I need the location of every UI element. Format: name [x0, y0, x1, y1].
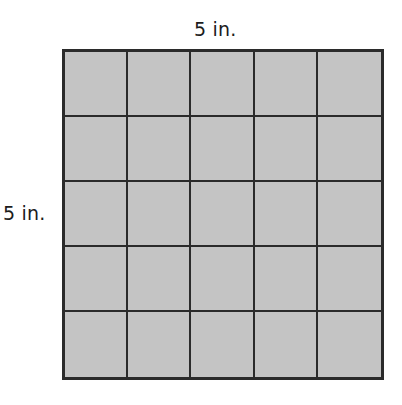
grid-cell	[65, 117, 128, 182]
grid-cell	[65, 247, 128, 312]
grid-cell	[191, 182, 254, 247]
grid-cell	[128, 52, 191, 117]
grid-cell	[318, 117, 381, 182]
grid-cell	[65, 52, 128, 117]
grid-cell	[65, 312, 128, 377]
grid-cell	[65, 182, 128, 247]
grid-cell	[318, 247, 381, 312]
grid-cell	[255, 182, 318, 247]
grid-cell	[191, 52, 254, 117]
grid-cell	[191, 117, 254, 182]
grid-cell	[255, 312, 318, 377]
grid-cell	[318, 182, 381, 247]
grid-cell	[128, 312, 191, 377]
grid-cell	[318, 52, 381, 117]
width-label: 5 in.	[194, 18, 237, 40]
grid-cell	[191, 312, 254, 377]
grid-cell	[128, 182, 191, 247]
square-grid	[62, 49, 384, 380]
grid-cell	[255, 247, 318, 312]
grid-cell	[128, 117, 191, 182]
grid-cell	[128, 247, 191, 312]
grid-cell	[318, 312, 381, 377]
grid-cell	[191, 247, 254, 312]
grid-cell	[255, 117, 318, 182]
height-label: 5 in.	[3, 202, 46, 224]
grid-cell	[255, 52, 318, 117]
